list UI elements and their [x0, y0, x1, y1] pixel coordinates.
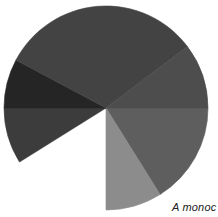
- chart-caption: A monoc: [172, 201, 216, 213]
- pie-slice-4: [4, 108, 106, 162]
- pie-chart: [0, 0, 218, 217]
